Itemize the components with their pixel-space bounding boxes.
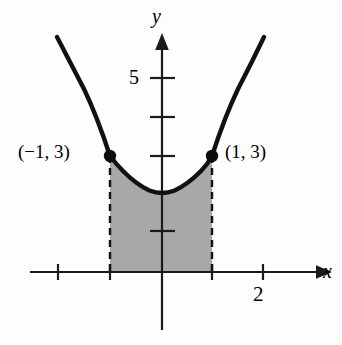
plot-canvas [0, 0, 342, 345]
point-marker-right [206, 150, 218, 162]
x-axis-label: x [323, 261, 332, 281]
parabola-curve [57, 37, 264, 193]
y-tick-label-5: 5 [129, 67, 139, 87]
y-axis-arrowhead [155, 33, 169, 50]
point-label-right: (1, 3) [225, 142, 266, 161]
point-label-left: (−1, 3) [18, 142, 70, 161]
parabola-figure: y x 5 2 (−1, 3) (1, 3) [0, 0, 342, 345]
y-axis-label: y [152, 6, 161, 26]
point-marker-left [104, 150, 116, 162]
x-tick-label-2: 2 [253, 284, 264, 305]
